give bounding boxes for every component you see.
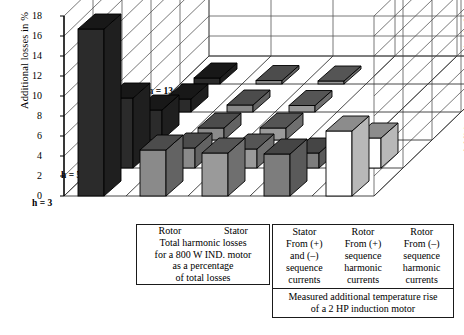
caption-right-col-1-header: Rotor [334, 226, 393, 238]
caption-left-line-0: Total harmonic losses [137, 237, 269, 249]
caption-right-col-1: Rotor From (+) sequence harmonic current… [334, 226, 393, 286]
bar-3d [289, 91, 332, 113]
caption-right-col-2-header: Rotor [392, 226, 451, 238]
bar-3d [326, 116, 369, 196]
caption-right-col-1-line-0: From (+) [334, 238, 393, 250]
caption-left-line-3: of total losses [137, 272, 269, 284]
bar-3d [256, 66, 299, 85]
caption-right-col-2-line-3: currents [392, 274, 451, 286]
caption-right-col-1-line-1: sequence [334, 250, 393, 262]
bar-3d [227, 90, 270, 112]
caption-right-col-2: Rotor From (–) sequence harmonic current… [392, 226, 451, 286]
bar-3d [194, 63, 237, 84]
caption-left-line-2: as a percentage [137, 260, 269, 272]
caption-right-col-0: Stator From (+) and (–) sequence current… [275, 226, 334, 286]
bar-3d [140, 135, 183, 196]
chart-figure: Additional losses in % Additional temper… [0, 0, 464, 335]
caption-right-footer: Measured additional temperature rise of … [273, 288, 453, 317]
caption-right-columns: Stator From (+) and (–) sequence current… [273, 225, 453, 288]
caption-left-header-1: Stator [203, 225, 269, 237]
caption-right-footer-line-1: of a 2 HP induction motor [275, 303, 451, 315]
caption-right-col-0-line-3: currents [275, 274, 334, 286]
bar-3d [78, 14, 121, 196]
caption-box-losses: Rotor Stator Total harmonic losses for a… [136, 224, 270, 285]
caption-right-col-0-header: Stator [275, 226, 334, 238]
caption-right-col-2-line-1: sequence [392, 250, 451, 262]
plot-area [0, 0, 464, 240]
caption-right-col-0-line-0: From (+) [275, 238, 334, 250]
caption-box-temperature: Stator From (+) and (–) sequence current… [272, 224, 454, 318]
caption-left-body: Total harmonic losses for a 800 W IND. m… [137, 237, 269, 284]
bars-3d-canvas [0, 0, 464, 240]
caption-right-col-0-line-2: sequence [275, 262, 334, 274]
caption-left-headers: Rotor Stator [137, 225, 269, 237]
caption-left-line-1: for a 800 W IND. motor [137, 249, 269, 261]
caption-right-col-2-line-0: From (–) [392, 238, 451, 250]
caption-right-col-0-line-1: and (–) [275, 250, 334, 262]
bar-3d [318, 66, 361, 84]
caption-right-col-2-line-2: harmonic [392, 262, 451, 274]
bars-group [78, 14, 398, 196]
caption-right-col-1-line-3: currents [334, 274, 393, 286]
caption-left-header-0: Rotor [137, 225, 203, 237]
caption-right-col-1-line-2: harmonic [334, 262, 393, 274]
caption-right-footer-line-0: Measured additional temperature rise [275, 291, 451, 303]
